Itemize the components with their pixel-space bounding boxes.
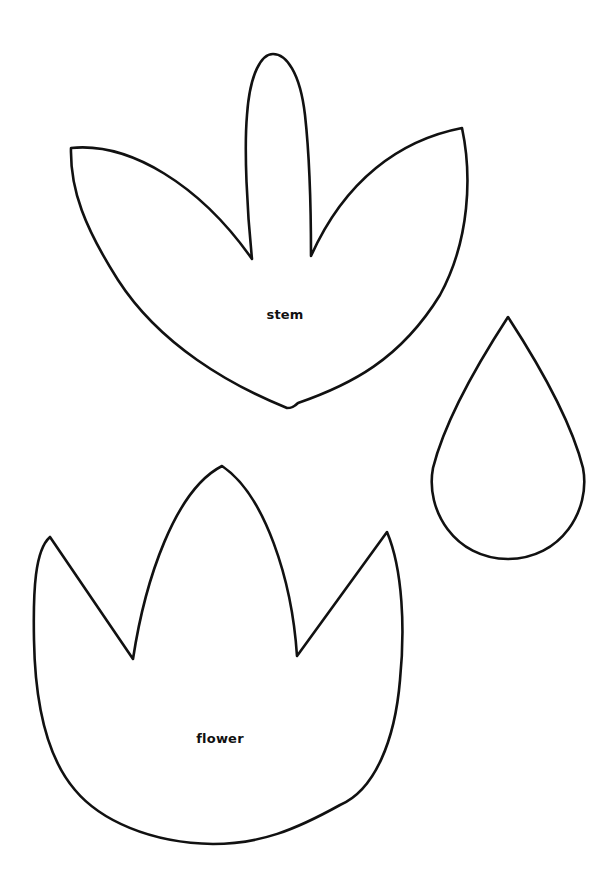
flower-label: flower	[196, 731, 243, 746]
stem-shape	[71, 54, 467, 408]
stem-label: stem	[266, 307, 303, 322]
flower-shape	[34, 466, 403, 844]
teardrop-shape	[432, 317, 585, 559]
template-canvas	[0, 0, 616, 891]
